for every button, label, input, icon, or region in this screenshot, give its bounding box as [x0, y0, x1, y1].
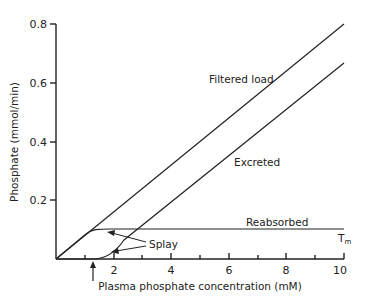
x-tick-label: 10: [333, 264, 347, 277]
y-tick-label: 0.4: [30, 136, 48, 149]
reabsorbed-label: Reabsorbed: [246, 216, 308, 228]
excreted-label: Excreted: [234, 156, 280, 168]
y-tick-label: 0.8: [30, 18, 48, 31]
y-axis-title: Phosphate (mmol/min): [8, 82, 20, 202]
tm-label: Tm: [337, 232, 351, 246]
splay-label: Splay: [149, 238, 178, 250]
y-tick-label: 0.6: [30, 77, 48, 90]
x-tick-label: 4: [168, 264, 175, 277]
threshold-arrow-icon: [90, 261, 96, 281]
phosphate-titration-chart: 0.8 0.6 0.4 0.2 2 4 6 8 10 Plasma phosph…: [0, 0, 366, 306]
x-tick-label: 2: [111, 264, 118, 277]
splay-arrows: [107, 230, 146, 254]
filtered-load-label: Filtered load: [209, 73, 274, 85]
reabsorbed-curve: [56, 229, 344, 259]
x-axis-title: Plasma phosphate concentration (mM): [98, 280, 302, 292]
y-tick-label: 0.2: [30, 194, 48, 207]
x-tick-label: 8: [283, 264, 290, 277]
x-tick-label: 6: [226, 264, 233, 277]
